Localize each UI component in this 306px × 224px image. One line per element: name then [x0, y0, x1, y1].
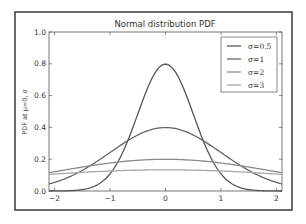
- legend-label: σ=1: [248, 55, 264, 64]
- y-tick-label: 0.4: [34, 123, 46, 132]
- x-tick-label: −1: [104, 194, 115, 203]
- legend-label: σ=0.5: [248, 42, 272, 51]
- figure: Normal distribution PDF −2−10120.00.20.4…: [0, 0, 306, 224]
- legend-label: σ=3: [248, 81, 264, 90]
- y-tick-label: 0.0: [34, 187, 46, 196]
- y-tick-label: 0.8: [34, 59, 46, 68]
- x-tick-label: 0: [163, 194, 168, 203]
- x-tick-label: −2: [49, 194, 60, 203]
- legend: σ=0.5σ=1σ=2σ=3: [221, 37, 277, 92]
- chart-title: Normal distribution PDF: [114, 19, 215, 29]
- y-tick-label: 1.0: [34, 28, 46, 37]
- legend-label: σ=2: [248, 68, 264, 77]
- y-tick-label: 0.6: [34, 91, 46, 100]
- y-axis-label: PDF at μ=0, σ: [21, 89, 29, 134]
- x-tick-label: 2: [274, 194, 279, 203]
- y-tick-label: 0.2: [34, 155, 46, 164]
- x-tick-label: 1: [219, 194, 224, 203]
